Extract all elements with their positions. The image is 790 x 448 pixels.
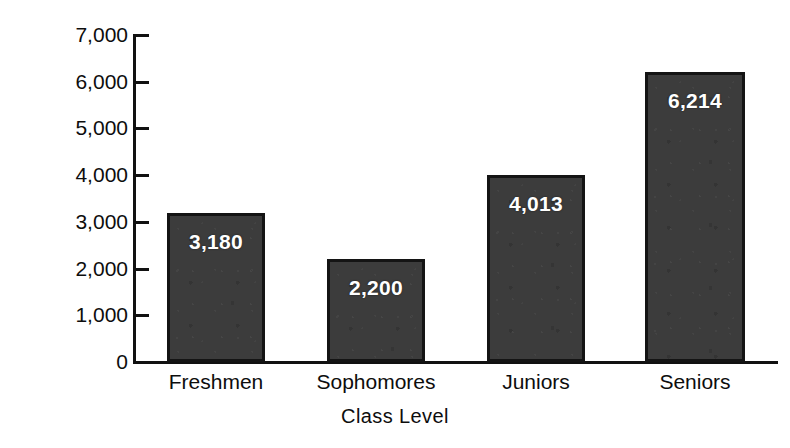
plot-area: 3,180Freshmen2,200Sophomores4,013Juniors… xyxy=(0,0,790,448)
bar: 6,214 xyxy=(645,72,745,362)
bar: 4,013 xyxy=(487,175,585,362)
y-axis-tick-mark xyxy=(134,81,149,84)
bar-value-label: 4,013 xyxy=(490,192,582,216)
y-axis-tick-mark xyxy=(134,127,149,130)
bar: 3,180 xyxy=(167,213,265,362)
bar-value-label: 3,180 xyxy=(170,230,262,254)
x-axis-category-label: Freshmen xyxy=(126,370,306,394)
bar-value-label: 2,200 xyxy=(330,276,422,300)
bar: 2,200 xyxy=(327,259,425,362)
y-axis-tick-mark xyxy=(134,174,149,177)
y-axis-tick-mark xyxy=(134,268,149,271)
y-axis-tick-mark xyxy=(134,314,149,317)
x-axis-category-label: Sophomores xyxy=(286,370,466,394)
x-axis-title: Class Level xyxy=(0,405,790,428)
bar-chart: Number of Students 7,0006,0005,0004,0003… xyxy=(0,0,790,448)
bar-value-label: 6,214 xyxy=(648,89,742,113)
y-axis-tick-mark xyxy=(134,221,149,224)
x-axis-category-label: Juniors xyxy=(446,370,626,394)
x-axis-category-label: Seniors xyxy=(605,370,785,394)
y-axis-tick-mark xyxy=(134,34,149,37)
